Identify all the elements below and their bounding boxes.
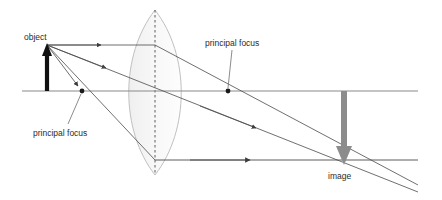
ray-diagram-container: object principal focus principal focus i… (0, 0, 442, 200)
object-label: object (24, 32, 47, 42)
principal-focus-label-left: principal focus (33, 128, 87, 138)
image-arrow-head (336, 146, 352, 165)
leader-line-principal-focus-left (68, 94, 81, 124)
principal-focus-dot-left (80, 89, 85, 94)
leader-line-principal-focus-right (228, 50, 232, 88)
principal-focus-dot-right (226, 89, 231, 94)
ray-parallel-refracted (155, 45, 418, 185)
ray-centre-refracted-arrow (200, 106, 256, 128)
image-label: image (328, 171, 351, 181)
optics-ray-diagram: object principal focus principal focus i… (0, 0, 442, 200)
principal-focus-label-right: principal focus (205, 38, 259, 48)
